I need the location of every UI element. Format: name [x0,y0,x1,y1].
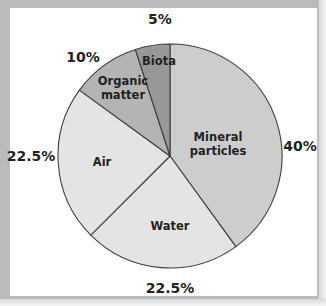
slice-percent-biota: 5% [148,11,172,27]
figure-frame-highlight-bottom [0,299,326,306]
slice-percent-water: 22.5% [146,280,195,296]
slice-percent-mineral-particles: 40% [283,138,317,154]
slice-percent-organic-matter: 10% [66,49,100,65]
pie-chart-figure: Mineral particles40%Water22.5%Air22.5%Or… [0,0,326,306]
figure-frame-highlight-right [319,0,326,306]
plot-area: Mineral particles40%Water22.5%Air22.5%Or… [10,8,317,296]
slice-percent-air: 22.5% [7,148,56,164]
pie-chart-svg [10,8,317,296]
